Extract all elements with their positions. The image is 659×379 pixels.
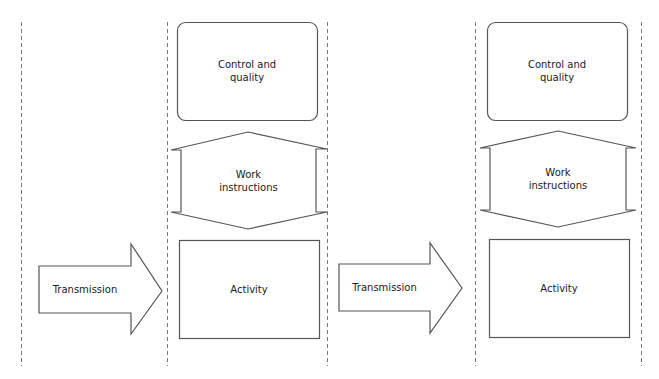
activity-text-1: Activity [230, 283, 267, 296]
work-instructions-line1: Work [545, 166, 570, 179]
control-quality-label-2: Control and quality [487, 22, 627, 120]
control-quality-line2: quality [540, 71, 574, 84]
control-quality-line1: Control and [218, 58, 276, 71]
work-instructions-label-2: Work instructions [490, 148, 626, 210]
transmission-label-1: Transmission [39, 266, 131, 313]
activity-label-2: Activity [489, 239, 629, 337]
work-instructions-line1: Work [236, 168, 261, 181]
activity-label-1: Activity [179, 240, 319, 338]
transmission-label-2: Transmission [339, 264, 430, 311]
control-quality-line2: quality [230, 71, 264, 84]
work-instructions-line2: instructions [529, 179, 588, 192]
control-quality-label-1: Control and quality [177, 22, 317, 120]
work-instructions-line2: instructions [219, 181, 278, 194]
control-quality-line1: Control and [528, 58, 586, 71]
work-instructions-label-1: Work instructions [181, 150, 316, 212]
activity-text-2: Activity [540, 282, 577, 295]
transmission-text-1: Transmission [53, 283, 118, 296]
transmission-text-2: Transmission [352, 281, 417, 294]
